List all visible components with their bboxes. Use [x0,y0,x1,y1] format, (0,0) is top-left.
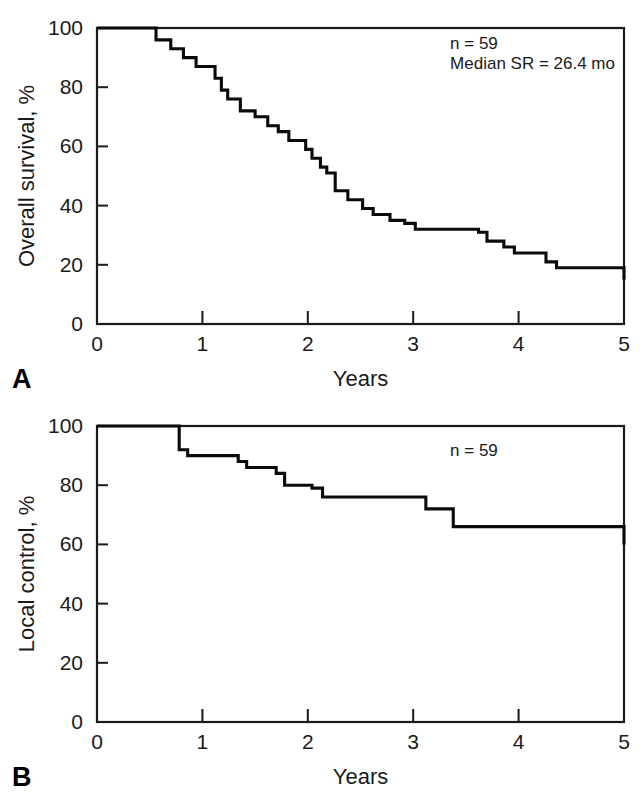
x-axis-tick-label: 1 [197,730,209,753]
y-axis-tick-label: 20 [60,253,83,276]
panel-b: 020406080100012345YearsLocal control, %n… [0,398,642,795]
plot-frame [97,426,624,722]
y-axis-tick-label: 0 [71,312,83,335]
x-axis-tick-label: 5 [618,332,630,355]
y-axis-tick-label: 20 [60,651,83,674]
y-axis-tick-label: 100 [48,16,83,39]
y-axis-tick-label: 80 [60,473,83,496]
x-axis-title: Years [333,366,388,391]
y-axis-tick-label: 100 [48,414,83,437]
y-axis-tick-label: 40 [60,592,83,615]
x-axis-tick-label: 2 [302,332,314,355]
x-axis-tick-label: 1 [197,332,209,355]
chart-local-control: 020406080100012345YearsLocal control, %n… [0,398,642,795]
chart-annotation: n = 59 [450,441,498,460]
x-axis-tick-label: 4 [513,730,525,753]
y-axis-tick-label: 80 [60,75,83,98]
y-axis-tick-label: 0 [71,710,83,733]
x-axis-tick-label: 3 [407,332,419,355]
x-axis-title: Years [333,764,388,789]
y-axis-tick-label: 40 [60,194,83,217]
x-axis-tick-label: 5 [618,730,630,753]
x-axis-tick-label: 0 [91,332,103,355]
survival-curve-line [97,426,624,544]
y-axis-title: Overall survival, % [14,85,39,267]
x-axis-tick-label: 0 [91,730,103,753]
y-axis-title: Local control, % [14,496,39,653]
chart-overall-survival: 020406080100012345YearsOverall survival,… [0,0,642,397]
panel-a: 020406080100012345YearsOverall survival,… [0,0,642,397]
figure-kaplan-meier: 020406080100012345YearsOverall survival,… [0,0,642,795]
x-axis-tick-label: 2 [302,730,314,753]
y-axis-tick-label: 60 [60,134,83,157]
chart-annotation: n = 59 [450,34,498,53]
chart-annotation: Median SR = 26.4 mo [450,54,615,73]
panel-letter-b: B [12,764,32,791]
x-axis-tick-label: 3 [407,730,419,753]
panel-letter-a: A [12,366,32,393]
x-axis-tick-label: 4 [513,332,525,355]
y-axis-tick-label: 60 [60,532,83,555]
